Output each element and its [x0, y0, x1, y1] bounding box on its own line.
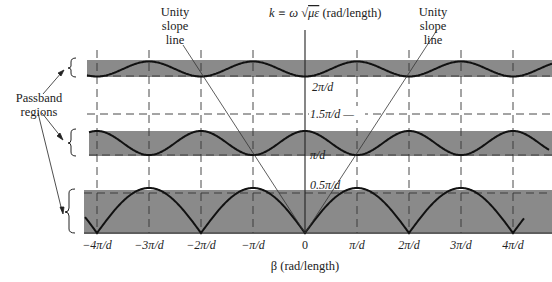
unity-slope-left-line3: line: [166, 33, 185, 47]
y-mark-pi: π/d: [310, 148, 326, 162]
y-mark-0-5pi: 0.5π/d: [310, 178, 341, 192]
x-tick: 4π/d: [502, 238, 524, 252]
x-tick: 2π/d: [398, 238, 420, 252]
unity-slope-right-line2: slope: [420, 19, 447, 33]
x-tick: −π/d: [241, 238, 265, 252]
unity-slope-left-line1: Unity: [161, 5, 190, 19]
x-tick-labels: −4π/d −3π/d −2π/d −π/d 0 π/d 2π/d 3π/d 4…: [82, 238, 524, 252]
y-axis-label: k ≡ ω √με (rad/length): [269, 6, 381, 20]
x-tick: 3π/d: [449, 238, 472, 252]
y-mark-1-5pi: 1.5π/d —: [310, 107, 354, 121]
dispersion-diagram: k ≡ ω √με (rad/length) Unity slope line …: [0, 0, 552, 282]
y-mark-2pi: 2π/d: [312, 80, 334, 94]
x-tick: −3π/d: [134, 238, 164, 252]
x-axis-label: β (rad/length): [271, 259, 340, 273]
x-tick: −4π/d: [82, 238, 112, 252]
x-tick: −2π/d: [186, 238, 216, 252]
x-tick: 0: [302, 238, 308, 252]
unity-slope-right-line3: line: [424, 33, 443, 47]
x-tick: π/d: [349, 238, 365, 252]
passband-label-line2: regions: [21, 105, 58, 119]
unity-slope-left-line2: slope: [162, 19, 189, 33]
passband-label-line1: Passband: [16, 91, 63, 105]
passband-braces: [65, 58, 76, 233]
unity-slope-right-line1: Unity: [419, 5, 448, 19]
